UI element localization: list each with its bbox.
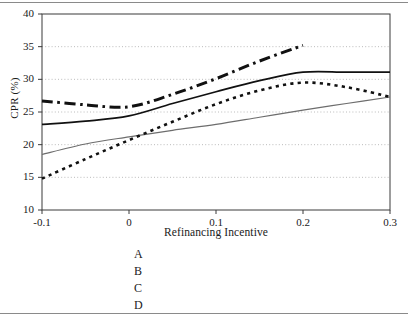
y-tick-label: 35: [12, 40, 34, 52]
y-tick-label: 40: [12, 7, 34, 19]
legend-label-b: B: [134, 263, 142, 279]
legend-item-a[interactable]: A: [56, 246, 206, 263]
axis-tickmarks: [38, 14, 390, 214]
series-line-d: [42, 45, 303, 107]
series-line-b: [42, 83, 390, 179]
legend-item-b[interactable]: B: [56, 263, 206, 280]
y-tick-label: 20: [12, 138, 34, 150]
y-tick-label: 15: [12, 170, 34, 182]
y-tick-label: 30: [12, 72, 34, 84]
gridlines-group: [42, 47, 390, 178]
x-tick-label: 0.3: [370, 216, 408, 228]
x-tick-label: 0.1: [196, 216, 236, 228]
legend-label-d: D: [134, 297, 143, 313]
legend-label-a: A: [134, 246, 143, 262]
y-tick-label: 25: [12, 105, 34, 117]
figure-container: CPR (%) Refinancing Incentive 1015202530…: [0, 0, 408, 321]
x-tick-label: 0: [109, 216, 149, 228]
legend-item-d[interactable]: D: [56, 297, 206, 314]
x-tick-label: -0.1: [22, 216, 62, 228]
y-tick-label: 10: [12, 203, 34, 215]
chart-legend: A B C D: [56, 246, 206, 314]
legend-item-c[interactable]: C: [56, 280, 206, 297]
legend-label-c: C: [134, 280, 142, 296]
x-tick-label: 0.2: [283, 216, 323, 228]
